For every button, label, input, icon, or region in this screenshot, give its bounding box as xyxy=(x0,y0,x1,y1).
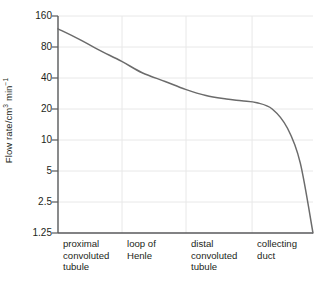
x-axis-category-label: distalconvolutedtubule xyxy=(191,238,253,273)
flow-rate-chart: Flow rate/cm3 min−1 1608040201052.51.25 … xyxy=(0,0,329,288)
x-axis-category-label-line: convoluted xyxy=(191,250,253,262)
vertical-gridlines xyxy=(122,16,252,233)
x-axis-category-label-line: collecting xyxy=(257,238,314,250)
x-axis-category-label-line: tubule xyxy=(63,261,123,273)
x-axis-category-label-line: duct xyxy=(257,250,314,262)
x-axis-category-label-line: distal xyxy=(191,238,253,250)
x-axis-category-label-line: Henle xyxy=(127,250,187,262)
x-axis-category-label-line: tubule xyxy=(191,261,253,273)
x-axis-category-label: loop ofHenle xyxy=(127,238,187,261)
horizontal-gridlines xyxy=(58,16,313,202)
x-axis-category-label: proximalconvolutedtubule xyxy=(63,238,123,273)
x-axis-category-label-line: loop of xyxy=(127,238,187,250)
y-axis-tick-marks xyxy=(52,16,58,233)
x-axis-category-label-line: proximal xyxy=(63,238,123,250)
x-axis-category-label: collectingduct xyxy=(257,238,314,261)
x-axis-category-label-line: convoluted xyxy=(63,250,123,262)
